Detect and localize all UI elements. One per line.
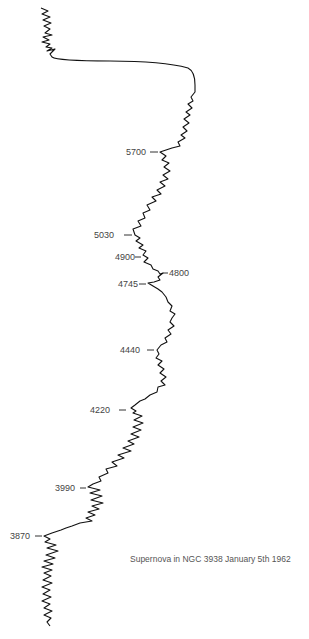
wavelength-label-5700: 5700 — [126, 147, 146, 157]
spectrum-plot — [0, 0, 309, 639]
tick-marks — [35, 152, 168, 536]
wavelength-label-4745: 4745 — [118, 279, 138, 289]
wavelength-label-5030: 5030 — [94, 230, 114, 240]
spectrum-trace — [41, 8, 195, 626]
wavelength-label-3990: 3990 — [55, 483, 75, 493]
wavelength-label-4440: 4440 — [120, 345, 140, 355]
wavelength-label-3870: 3870 — [10, 531, 30, 541]
wavelength-label-4800: 4800 — [169, 268, 189, 278]
wavelength-label-4220: 4220 — [90, 405, 110, 415]
chart-caption: Supernova in NGC 3938 January 5th 1962 — [130, 554, 291, 564]
wavelength-label-4900: 4900 — [115, 252, 135, 262]
